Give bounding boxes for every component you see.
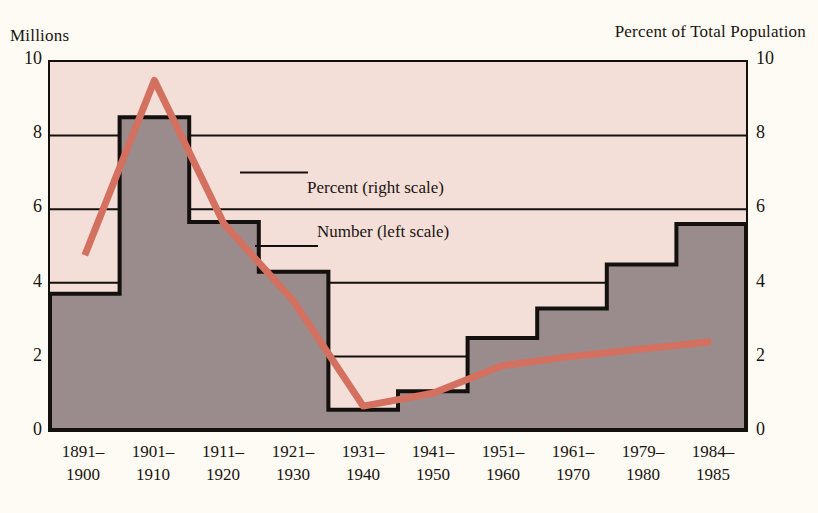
x-axis-label-top: 1961– <box>538 440 608 463</box>
y2-axis-tick-10: 10 <box>756 48 790 69</box>
y2-axis-tick-8: 8 <box>756 122 790 143</box>
x-axis-label-bottom: 1920 <box>188 463 258 486</box>
y-axis-tick-10: 10 <box>8 48 42 69</box>
x-axis-label-top: 1951– <box>468 440 538 463</box>
x-axis-label-top: 1911– <box>188 440 258 463</box>
x-axis-label-top: 1979– <box>608 440 678 463</box>
legend-label-number: Number (left scale) <box>317 222 449 242</box>
number-step-area <box>50 117 746 430</box>
x-axis-label-bottom: 1950 <box>398 463 468 486</box>
x-axis-label-2: 1911–1920 <box>188 440 258 487</box>
y2-axis-tick-6: 6 <box>756 196 790 217</box>
x-axis-label-top: 1891– <box>48 440 118 463</box>
x-axis-label-bottom: 1970 <box>538 463 608 486</box>
x-axis-label-6: 1951–1960 <box>468 440 538 487</box>
legend-label-percent: Percent (right scale) <box>307 178 444 198</box>
x-axis-label-top: 1901– <box>118 440 188 463</box>
x-axis-label-0: 1891–1900 <box>48 440 118 487</box>
x-axis-label-bottom: 1940 <box>328 463 398 486</box>
y-axis-tick-8: 8 <box>8 122 42 143</box>
chart-figure: Millions Percent of Total Population 10 … <box>0 0 818 513</box>
x-axis-label-8: 1979–1980 <box>608 440 678 487</box>
x-axis-label-bottom: 1960 <box>468 463 538 486</box>
x-axis-labels: 1891–19001901–19101911–19201921–19301931… <box>48 440 748 500</box>
x-axis-label-7: 1961–1970 <box>538 440 608 487</box>
left-axis-title: Millions <box>10 26 69 46</box>
y-axis-tick-4: 4 <box>8 271 42 292</box>
x-axis-label-bottom: 1980 <box>608 463 678 486</box>
x-axis-label-top: 1921– <box>258 440 328 463</box>
x-axis-label-9: 1984–1985 <box>678 440 748 487</box>
y-axis-tick-0: 0 <box>8 419 42 440</box>
chart-canvas <box>50 62 746 430</box>
x-axis-label-1: 1901–1910 <box>118 440 188 487</box>
plot-area <box>48 60 748 432</box>
y2-axis-tick-4: 4 <box>756 271 790 292</box>
x-axis-label-3: 1921–1930 <box>258 440 328 487</box>
x-axis-label-top: 1931– <box>328 440 398 463</box>
x-axis-label-bottom: 1900 <box>48 463 118 486</box>
y2-axis-tick-2: 2 <box>756 345 790 366</box>
x-axis-label-top: 1984– <box>678 440 748 463</box>
y-axis-tick-2: 2 <box>8 345 42 366</box>
y2-axis-tick-0: 0 <box>756 419 790 440</box>
x-axis-label-bottom: 1930 <box>258 463 328 486</box>
x-axis-label-5: 1941–1950 <box>398 440 468 487</box>
x-axis-label-bottom: 1985 <box>678 463 748 486</box>
x-axis-label-4: 1931–1940 <box>328 440 398 487</box>
x-axis-label-bottom: 1910 <box>118 463 188 486</box>
right-axis-title: Percent of Total Population <box>615 22 806 42</box>
y-axis-tick-6: 6 <box>8 196 42 217</box>
x-axis-label-top: 1941– <box>398 440 468 463</box>
